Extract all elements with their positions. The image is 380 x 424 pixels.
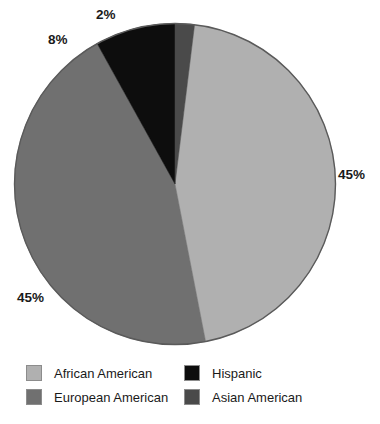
- slice-value-label-european-american: 45%: [17, 291, 44, 305]
- slice-value-label-hispanic: 8%: [48, 33, 68, 47]
- legend-item-european-american[interactable]: European American: [26, 385, 184, 409]
- legend-item-asian-american[interactable]: Asian American: [184, 385, 342, 409]
- legend-swatch-hispanic: [184, 365, 200, 381]
- legend-swatch-african-american: [26, 365, 42, 381]
- pie-chart: 2% 8% 45% 45% African AmericanHispanicEu…: [0, 0, 380, 424]
- legend-item-hispanic[interactable]: Hispanic: [184, 361, 342, 385]
- slice-value-label-african-american: 45%: [338, 168, 365, 182]
- legend-label: African American: [54, 367, 152, 380]
- legend-label: Asian American: [212, 391, 302, 404]
- legend-label: European American: [54, 391, 168, 404]
- pie-svg: [0, 0, 380, 360]
- slice-value-label-asian-american: 2%: [96, 8, 116, 22]
- chart-legend: African AmericanHispanicEuropean America…: [26, 361, 356, 409]
- legend-item-african-american[interactable]: African American: [26, 361, 184, 385]
- legend-swatch-asian-american: [184, 389, 200, 405]
- legend-label: Hispanic: [212, 367, 262, 380]
- legend-swatch-european-american: [26, 389, 42, 405]
- pie-plot-area: 2% 8% 45% 45%: [0, 0, 380, 360]
- pie-slice-african-american[interactable]: [175, 25, 335, 342]
- pie-slice-group: [14, 24, 335, 345]
